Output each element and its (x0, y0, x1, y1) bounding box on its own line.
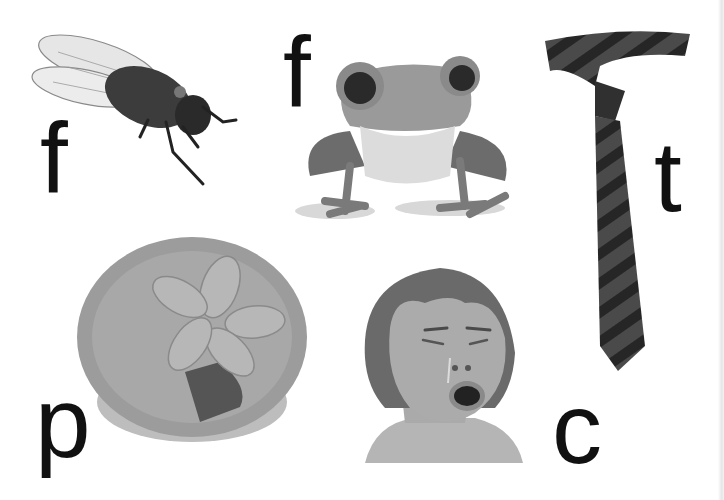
letter-c: c (552, 378, 602, 478)
letter-f-frog: f (283, 22, 311, 122)
letter-f-fly: f (40, 108, 68, 208)
letter-p: p (35, 372, 91, 472)
crying-child-picture (355, 258, 535, 466)
phonics-worksheet: f f t (0, 0, 724, 500)
pie-picture (70, 232, 315, 452)
letter-t: t (654, 126, 682, 226)
frog-picture (290, 36, 525, 221)
right-edge-divider (718, 0, 724, 500)
